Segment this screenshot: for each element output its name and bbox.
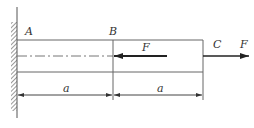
label-dimension-ab: a — [63, 82, 70, 95]
wall-hatching — [11, 22, 17, 111]
bar — [17, 40, 203, 100]
cantilever-diagram: A B C F F a a — [0, 0, 254, 128]
label-dimension-bc: a — [157, 82, 164, 95]
fixed-wall-support — [11, 7, 17, 118]
label-point-c: C — [213, 38, 222, 51]
label-force-c: F — [239, 38, 248, 51]
label-force-b: F — [141, 41, 150, 54]
label-point-a: A — [24, 25, 33, 38]
label-point-b: B — [108, 25, 117, 38]
